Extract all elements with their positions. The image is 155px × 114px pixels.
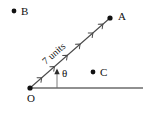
point-C-dot <box>91 70 96 75</box>
angle-marker-arrowhead-icon <box>54 69 59 75</box>
point-C-label: C <box>100 66 107 78</box>
point-A-dot <box>107 15 112 20</box>
geometry-diagram-canvas: O A B C θ 7 units <box>0 0 155 114</box>
point-O-dot <box>27 85 32 90</box>
point-A-label: A <box>118 10 126 22</box>
point-B-dot <box>12 9 17 14</box>
angle-theta-label: θ <box>62 67 67 79</box>
point-O-label: O <box>27 92 35 104</box>
point-B-label: B <box>21 5 28 17</box>
diagram-svg: O A B C θ 7 units <box>0 0 155 114</box>
ray-length-label: 7 units <box>40 40 68 66</box>
